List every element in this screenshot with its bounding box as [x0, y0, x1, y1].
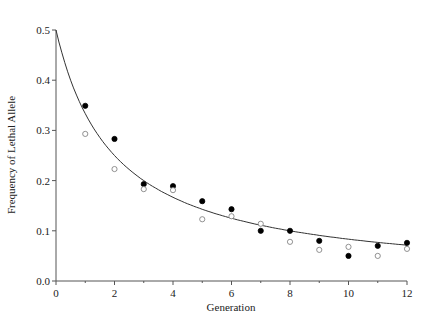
- filled-data-point: [317, 238, 322, 243]
- y-tick-label: 0.1: [36, 225, 50, 237]
- open-data-point: [112, 166, 117, 171]
- axes: 0.00.10.20.30.40.5024681012: [36, 24, 412, 299]
- filled-data-point: [200, 199, 205, 204]
- open-data-point: [200, 217, 205, 222]
- open-data-point: [404, 246, 409, 251]
- filled-data-point: [287, 228, 292, 233]
- filled-data-point: [375, 243, 380, 248]
- x-axis-label: Generation: [207, 301, 256, 313]
- open-data-point: [317, 247, 322, 252]
- open-data-point: [229, 214, 234, 219]
- filled-data-point: [258, 228, 263, 233]
- open-data-point: [170, 188, 175, 193]
- filled-data-point: [141, 182, 146, 187]
- y-tick-label: 0.4: [36, 74, 50, 86]
- x-tick-label: 4: [170, 287, 176, 299]
- y-tick-label: 0.0: [36, 275, 50, 287]
- filled-data-point: [112, 136, 117, 141]
- plot-area: [56, 30, 410, 259]
- y-axis-label: Frequency of Lethal Allele: [5, 96, 17, 214]
- filled-data-point: [229, 207, 234, 212]
- open-data-point: [141, 187, 146, 192]
- open-data-point: [83, 131, 88, 136]
- filled-data-point: [404, 240, 409, 245]
- y-tick-label: 0.5: [36, 24, 50, 36]
- x-tick-label: 0: [53, 287, 59, 299]
- x-tick-label: 12: [402, 287, 413, 299]
- filled-data-point: [346, 253, 351, 258]
- open-data-point: [375, 253, 380, 258]
- x-tick-label: 8: [287, 287, 293, 299]
- y-tick-label: 0.2: [36, 175, 50, 187]
- open-data-point: [346, 244, 351, 249]
- x-tick-label: 6: [229, 287, 235, 299]
- chart: 0.00.10.20.30.40.5024681012 Generation F…: [0, 0, 431, 332]
- x-tick-label: 2: [112, 287, 118, 299]
- y-tick-label: 0.3: [36, 124, 50, 136]
- open-data-point: [287, 239, 292, 244]
- expected-curve: [56, 30, 407, 245]
- filled-data-point: [83, 103, 88, 108]
- x-tick-label: 10: [343, 287, 355, 299]
- open-data-point: [258, 221, 263, 226]
